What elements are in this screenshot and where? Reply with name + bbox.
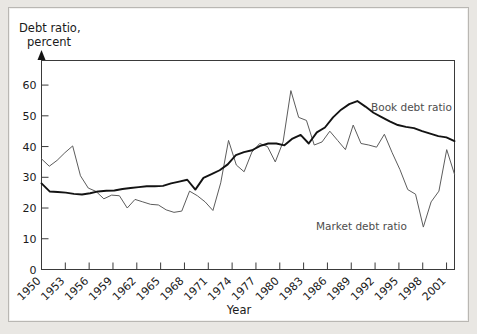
y-tick-label: 20 — [23, 202, 37, 215]
x-tick-label: 1953 — [38, 274, 67, 303]
x-tick-label: 1980 — [253, 274, 282, 303]
x-axis-ticks: 1950195319561959196219651968197119741977… — [15, 263, 449, 304]
x-tick-label: 1986 — [301, 274, 330, 303]
y-tick-label: 40 — [23, 141, 37, 154]
y-axis-arrow — [38, 50, 46, 60]
x-tick-label: 1971 — [181, 274, 210, 303]
x-axis-title: Year — [226, 303, 252, 317]
y-tick-label: 50 — [23, 110, 37, 123]
x-tick-label: 1965 — [134, 274, 163, 303]
chart-paper: Debt ratio, percent 0102030405060 195019… — [8, 7, 469, 322]
y-axis-ticks: 0102030405060 — [23, 79, 49, 276]
x-tick-label: 1992 — [348, 274, 377, 303]
x-tick-label: 1998 — [396, 274, 425, 303]
y-tick-label: 60 — [23, 79, 37, 92]
series-label-book-debt-ratio: Book debt ratio — [371, 101, 452, 113]
plot-frame — [42, 61, 455, 270]
x-tick-label: 1977 — [229, 274, 258, 303]
x-tick-label: 1968 — [158, 274, 187, 303]
x-tick-label: 1962 — [110, 274, 139, 303]
series-label-market-debt-ratio: Market debt ratio — [316, 220, 407, 232]
y-axis-title-line2: percent — [27, 35, 72, 49]
x-tick-label: 1989 — [324, 274, 353, 303]
y-tick-label: 30 — [23, 171, 37, 184]
debt-ratio-line-chart: Debt ratio, percent 0102030405060 195019… — [9, 8, 468, 321]
figure-canvas: Debt ratio, percent 0102030405060 195019… — [0, 0, 477, 334]
x-tick-label: 1983 — [277, 274, 306, 303]
x-tick-label: 1950 — [15, 274, 44, 303]
x-tick-label: 1974 — [205, 274, 234, 303]
series-line-book-debt-ratio — [42, 101, 455, 194]
x-tick-label: 1956 — [62, 274, 91, 303]
y-axis-title-line1: Debt ratio, — [19, 21, 81, 35]
x-tick-label: 1959 — [86, 274, 115, 303]
x-tick-label: 2001 — [420, 274, 449, 303]
y-tick-label: 10 — [23, 233, 37, 246]
x-tick-label: 1995 — [372, 274, 401, 303]
